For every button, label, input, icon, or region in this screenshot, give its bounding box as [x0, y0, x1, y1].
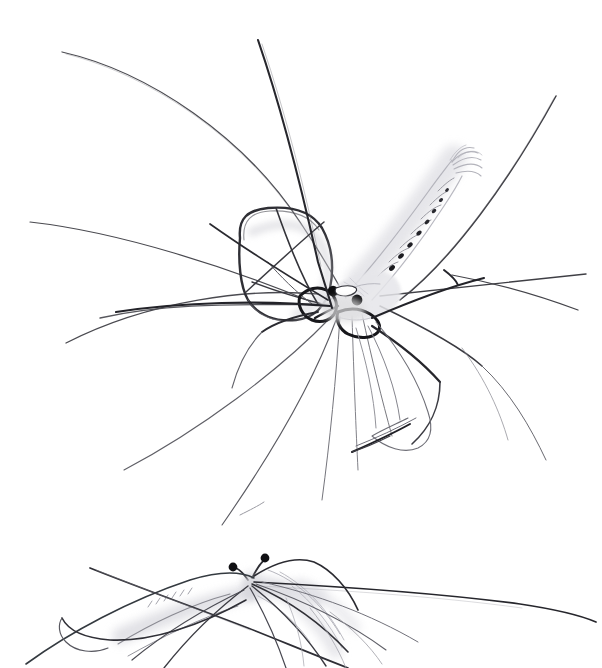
- lower-eye-left: [229, 563, 238, 572]
- lower-eye-right: [261, 554, 270, 563]
- head-smudge: [322, 297, 366, 323]
- drawing-canvas: Two graphite sketches of a crane fly on …: [0, 0, 602, 668]
- crane-fly-drawing: [0, 0, 602, 668]
